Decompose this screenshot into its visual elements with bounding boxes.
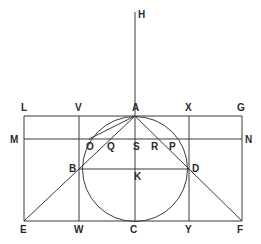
label-point-p: P [169,141,176,152]
label-point-a: A [132,102,139,113]
label-point-k: K [134,171,142,182]
label-point-l: L [21,102,27,113]
label-point-r: R [151,141,159,152]
label-point-o: O [86,141,94,152]
label-point-e: E [20,224,27,235]
label-point-d: D [192,163,199,174]
label-point-m: M [10,134,18,145]
label-point-b: B [69,163,76,174]
label-point-x: X [185,102,192,113]
label-point-q: Q [107,141,115,152]
label-point-n: N [245,134,252,145]
label-point-w: W [74,224,84,235]
label-point-c: C [130,224,137,235]
segment-ao [89,116,135,139]
point-labels: HLVAXGMNOQSRPBKDEWCYF [10,9,252,235]
label-point-y: Y [185,224,192,235]
label-point-v: V [75,102,82,113]
label-point-s: S [133,141,140,152]
label-point-g: G [237,102,245,113]
geometry-diagram: HLVAXGMNOQSRPBKDEWCYF [0,0,261,244]
label-point-f: F [237,224,243,235]
label-point-h: H [138,9,145,20]
